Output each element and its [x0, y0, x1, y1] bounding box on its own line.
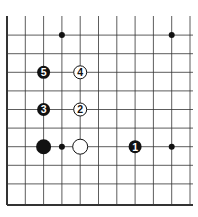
white-stone-2: 2 — [74, 103, 87, 116]
stones: 12345 — [36, 66, 142, 154]
white-stone — [73, 139, 88, 154]
move-number: 1 — [132, 141, 138, 153]
marker-dot — [59, 144, 65, 150]
move-number: 3 — [41, 103, 47, 115]
black-stone — [36, 139, 51, 154]
star-point — [169, 144, 175, 150]
stone-disc — [36, 139, 51, 154]
move-number: 5 — [41, 66, 47, 78]
go-board: 12345 — [0, 0, 198, 217]
star-point — [59, 32, 65, 38]
move-number: 2 — [77, 103, 83, 115]
black-stone-5: 5 — [37, 66, 50, 79]
board-grid — [7, 16, 193, 205]
move-number: 4 — [77, 66, 83, 78]
star-point — [169, 32, 175, 38]
stone-disc — [73, 139, 88, 154]
black-stone-3: 3 — [37, 103, 50, 116]
white-stone-4: 4 — [74, 66, 87, 79]
black-stone-1: 1 — [129, 140, 142, 153]
